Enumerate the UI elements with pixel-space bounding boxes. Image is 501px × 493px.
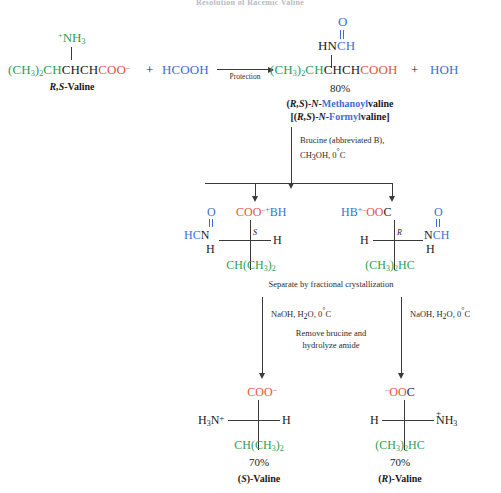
right-product-carboxylate: –OOC — [385, 385, 414, 400]
product-alkyl-open: (CH — [270, 62, 293, 77]
split-arrow-left — [255, 183, 256, 196]
right-salt-hb: HB — [341, 205, 358, 219]
reactant-ammonium-group: +NH3 — [58, 30, 86, 46]
hydrolysis-note-line1: Remove brucine and — [296, 328, 366, 339]
product-formula: (CH3)2CHCHCHCOOH — [270, 62, 397, 78]
right-product-isopropyl: (CH3)2HC — [375, 438, 424, 453]
separation-label: Separate by fractional crystallization — [269, 279, 394, 290]
right-salt-c: C — [384, 205, 392, 219]
hydrolysis-arrow-left — [262, 297, 263, 373]
reactant-formula: (CH3)2CHCHCHCOO– — [8, 62, 130, 78]
left-product-name: (S)-Valine — [238, 473, 280, 484]
left-salt-oxygen: O — [207, 205, 216, 220]
product-amide-group: HNCH — [318, 38, 355, 54]
reactant-n-c-bond — [71, 47, 72, 60]
product-formyl-ch: CH — [337, 38, 355, 53]
left-salt-isopropyl: CH(CH3)2 — [226, 258, 275, 273]
right-salt-h-left: H — [360, 233, 369, 248]
left-product-h-right: H — [282, 413, 291, 428]
left-product-carboxylate: COO– — [247, 385, 276, 400]
right-product-horizontal-bond — [382, 420, 434, 421]
hydrolysis-condition-left: NaOH, H2O, 0°C — [271, 305, 331, 322]
pn1-tail: valine — [368, 98, 394, 109]
reactant-backbone: CHCH — [62, 62, 99, 77]
methanol-a: CH — [300, 150, 312, 160]
reactant-stereo-descriptor: R,S — [50, 81, 65, 92]
product-carbonyl-oxygen: O — [338, 14, 348, 30]
hydrolysis-arrow-right — [401, 297, 402, 373]
brucine-condition-line2: CH3OH, 0°C — [300, 146, 345, 163]
right-salt-horizontal-bond — [373, 240, 423, 241]
left-salt-co-double-a — [209, 219, 210, 227]
right-salt-ooc: OO — [366, 205, 383, 219]
methanol-b: OH, 0 — [316, 150, 337, 160]
page-title: Resolution of Racemic Valine — [196, 0, 304, 7]
left-salt-stereo-descriptor: S — [253, 228, 257, 237]
right-salt-n: N — [424, 228, 433, 242]
left-salt-bh: BH — [270, 205, 287, 219]
naoh-right-b: O, 0 — [447, 309, 462, 319]
ammonium-label: NH — [63, 30, 82, 45]
right-salt-alkyl-a: (CH — [365, 258, 386, 272]
pn2-stereo: R,S — [297, 111, 312, 122]
left-product-alkyl-a: CH(CH — [234, 438, 271, 452]
right-salt-stereo-descriptor: R — [397, 228, 402, 237]
reactant-alkyl-ch: CH — [43, 62, 61, 77]
right-product-c: C — [407, 385, 415, 399]
left-salt-n-hydrogen: H — [206, 242, 215, 257]
right-salt-alkyl-c: HC — [398, 258, 415, 272]
right-salt-ch: CH — [433, 228, 450, 242]
right-product-nh3-charge: + — [436, 408, 441, 418]
hydrolysis-note-line2: hydrolyze amide — [303, 340, 360, 351]
product-carboxyl: COOH — [360, 62, 397, 77]
split-arrow-right — [392, 183, 393, 196]
right-salt-formamide: NCH — [424, 228, 449, 243]
reactant-carboxylate: COO — [98, 62, 126, 77]
left-salt-co-double-b — [212, 219, 213, 227]
left-salt-horizontal-bond — [219, 240, 271, 241]
left-salt-h-right: H — [273, 233, 282, 248]
left-salt-alkyl-a: CH(CH — [226, 258, 263, 272]
pn1-highlight: Methanoyl — [322, 98, 368, 109]
reactant-name-label: R,S-Valine — [50, 81, 95, 92]
pn1-n-locant: N — [311, 98, 318, 109]
protection-arrow-label: Protection — [230, 72, 261, 81]
right-salt-oxygen: O — [434, 205, 443, 220]
product-name-line2: [(R,S)-N-Formylvaline] — [290, 111, 389, 122]
right-product-name: (R)-Valine — [378, 473, 422, 484]
right-salt-n-hydrogen: H — [426, 242, 435, 257]
reactant-alkyl-open: (CH — [8, 62, 31, 77]
left-salt-carboxylate-group: COO–+BH — [236, 205, 287, 220]
split-horizontal-line — [205, 183, 392, 184]
right-salt-carboxylate-group: HB+–OOC — [341, 205, 392, 220]
right-product-yield: 70% — [390, 456, 410, 468]
left-product-h3n-a: H — [198, 413, 207, 427]
pn1-close: )- — [305, 98, 312, 109]
naoh-left-a: NaOH, H — [271, 309, 304, 319]
left-salt-alkyl-sub2: 2 — [272, 264, 276, 273]
methanol-c: C — [340, 150, 346, 160]
naoh-right-a: NaOH, H — [410, 309, 443, 319]
brucine-step-arrow — [291, 127, 292, 183]
ammonium-subscript: 3 — [82, 37, 86, 46]
right-product-alkyl-a: (CH — [375, 438, 396, 452]
plus-sign-1: + — [146, 62, 153, 78]
pn2-open: [( — [290, 111, 297, 122]
reactant-carboxylate-charge: – — [126, 63, 130, 72]
protection-arrow — [217, 69, 273, 70]
left-product-ammonium: H3N+ — [198, 413, 224, 428]
left-product-isopropyl: CH(CH3)2 — [234, 438, 283, 453]
split-line-cap — [205, 183, 206, 184]
product-alkyl-ch: CH — [305, 62, 323, 77]
product-yield: 80% — [330, 82, 350, 94]
reactant-name-rest: -Valine — [64, 81, 94, 92]
hydrolysis-condition-right: NaOH, H2O, 0°C — [410, 305, 470, 322]
naoh-left-b: O, 0 — [308, 309, 323, 319]
brucine-condition-line1: Brucine (abbreviated B), — [300, 135, 384, 146]
pn2-tail: valine] — [361, 111, 390, 122]
naoh-left-c: C — [325, 309, 331, 319]
left-salt-n: N — [201, 228, 210, 242]
product-backbone: CHCH — [324, 62, 361, 77]
left-product-coo-charge: – — [273, 385, 277, 394]
right-product-nh3-sub: 3 — [453, 419, 457, 428]
